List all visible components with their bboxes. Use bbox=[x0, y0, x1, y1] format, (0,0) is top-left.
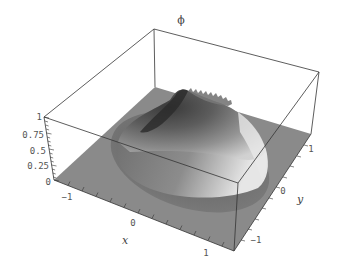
surface-plot: ϕ 1 0.75 0.5 0.25 0 −1 0 1 x −1 0 1 y bbox=[0, 0, 337, 274]
z-tick-0-75: 0.75 bbox=[22, 130, 44, 140]
z-tick-0: 0 bbox=[46, 177, 51, 187]
box-back-edges bbox=[154, 29, 155, 87]
x-tick-1: 1 bbox=[203, 248, 208, 258]
x-tick-0: 0 bbox=[130, 218, 135, 228]
z-axis-ticks bbox=[44, 117, 59, 181]
x-axis-label: x bbox=[122, 234, 129, 247]
y-axis-label: y bbox=[296, 193, 304, 206]
x-tick-neg1: −1 bbox=[62, 192, 73, 202]
y-tick-0: 0 bbox=[280, 186, 285, 196]
chart-title: ϕ bbox=[177, 14, 185, 27]
y-tick-1: 1 bbox=[308, 144, 313, 154]
y-tick-neg1: −1 bbox=[251, 235, 262, 245]
z-tick-1: 1 bbox=[37, 112, 42, 122]
z-tick-0-5: 0.5 bbox=[30, 146, 46, 156]
z-tick-0-25: 0.25 bbox=[27, 161, 49, 171]
